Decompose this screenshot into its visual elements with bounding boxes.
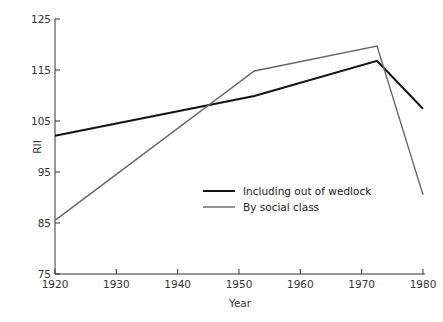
- x-axis-title: Year: [228, 297, 252, 309]
- x-tick-label: 1970: [348, 278, 375, 290]
- x-tick-label: 1980: [410, 278, 437, 290]
- y-tick-label: 85: [38, 217, 51, 229]
- x-tick-label: 1940: [164, 278, 191, 290]
- x-tick-label: 1930: [103, 278, 130, 290]
- x-tick-label: 1950: [226, 278, 253, 290]
- x-tick-label: 1960: [287, 278, 314, 290]
- y-tick-label: 115: [31, 64, 51, 76]
- axes: 7585951051151251920193019401950196019701…: [31, 13, 436, 290]
- series-line-out-of-wedlock: [55, 61, 423, 136]
- x-tick-label: 1920: [42, 278, 69, 290]
- legend: Including out of wedlockBy social class: [203, 185, 372, 213]
- legend-label: By social class: [243, 201, 319, 213]
- legend-label: Including out of wedlock: [243, 185, 372, 197]
- line-chart: 7585951051151251920193019401950196019701…: [0, 0, 443, 322]
- y-axis-title: RII: [31, 140, 43, 154]
- y-tick-label: 125: [31, 13, 51, 25]
- y-tick-label: 105: [31, 115, 51, 127]
- y-tick-label: 95: [38, 166, 51, 178]
